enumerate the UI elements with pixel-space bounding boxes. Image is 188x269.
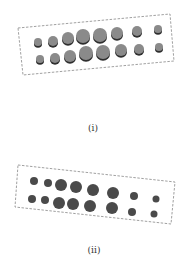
disc xyxy=(67,198,79,210)
disc xyxy=(28,195,36,203)
cylinder-top xyxy=(62,32,74,44)
cylinder-top xyxy=(154,25,162,33)
disc xyxy=(41,196,49,204)
disc xyxy=(151,211,158,218)
cylinder-top xyxy=(64,50,76,62)
cylinder-top xyxy=(48,36,58,46)
cylinder-top xyxy=(36,55,44,63)
cylinder-top xyxy=(50,53,60,63)
disc xyxy=(44,179,52,187)
disc xyxy=(128,208,136,216)
disc xyxy=(55,179,67,191)
disc xyxy=(53,197,65,209)
disc xyxy=(70,181,82,193)
cylinder-top xyxy=(111,27,123,39)
cylinder-top xyxy=(96,45,110,59)
disc xyxy=(130,192,138,200)
cylinder-top xyxy=(132,26,142,36)
disc xyxy=(153,196,160,203)
panel-ii-caption: (ii) xyxy=(74,245,114,255)
panel-i-caption: (i) xyxy=(73,123,113,133)
panel-i-diagram xyxy=(18,14,174,75)
panel-ii-diagram xyxy=(15,165,175,224)
cylinder-top xyxy=(155,43,163,51)
cylinder-top xyxy=(34,38,42,46)
disc xyxy=(87,184,99,196)
figure-canvas xyxy=(0,0,188,269)
disc xyxy=(106,202,118,214)
cylinder-top xyxy=(134,44,144,54)
cylinder-top xyxy=(76,29,90,43)
disc xyxy=(30,177,38,185)
cylinder-top xyxy=(115,44,127,56)
disc xyxy=(107,187,119,199)
cylinder-top xyxy=(79,46,93,60)
disc xyxy=(84,200,96,212)
cylinder-top xyxy=(93,28,107,42)
